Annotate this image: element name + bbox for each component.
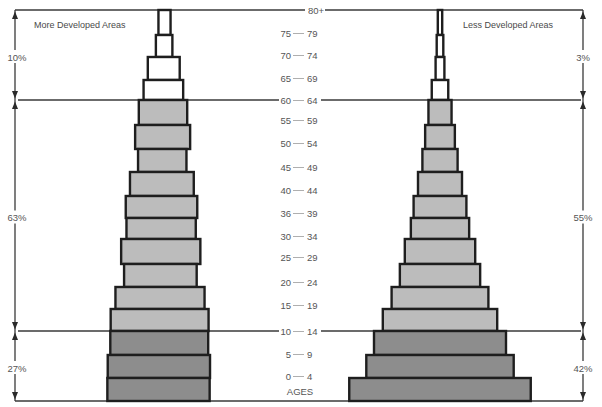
bar-more-developed-30-34 xyxy=(121,239,200,264)
arrow-down-icon xyxy=(12,322,18,330)
age-tick-to: 79 xyxy=(307,28,318,39)
age-tick-75-79: 7579 xyxy=(279,27,321,39)
age-axis: 80+7579707465696064555950544549404436393… xyxy=(279,4,325,382)
share-label-right: 55% xyxy=(573,212,593,223)
share-label-right: 3% xyxy=(576,52,590,63)
arrow-up-icon xyxy=(580,12,586,20)
age-tick-from: 36 xyxy=(280,208,291,219)
bar-less-developed-10-14 xyxy=(374,331,506,355)
age-tick-from: 65 xyxy=(280,73,291,84)
bar-less-developed-50-54 xyxy=(422,149,457,172)
bar-less-developed-80plus xyxy=(438,10,442,35)
age-tick-to: 14 xyxy=(307,326,318,337)
age-tick-to: 24 xyxy=(307,277,318,288)
age-tick-80plus: 80+ xyxy=(305,4,325,16)
age-tick-from: 25 xyxy=(280,252,291,263)
age-tick-from: 45 xyxy=(280,162,291,173)
bar-less-developed-55-59 xyxy=(425,125,455,149)
age-tick-70-74: 7074 xyxy=(279,49,321,61)
bar-more-developed-60-64 xyxy=(139,100,187,125)
bar-less-developed-5-9 xyxy=(366,355,513,378)
age-tick-to: 64 xyxy=(307,95,318,106)
age-tick-to: 34 xyxy=(307,231,318,242)
bar-less-developed-65-69 xyxy=(432,80,449,100)
arrow-down-icon xyxy=(580,91,586,99)
share-label-left: 27% xyxy=(7,363,27,374)
bar-less-developed-60-64 xyxy=(428,100,451,125)
arrow-down-icon xyxy=(580,392,586,400)
bar-less-developed-20-24 xyxy=(392,287,489,309)
age-tick-40-44: 4044 xyxy=(279,184,321,196)
bar-less-developed-70-74 xyxy=(436,57,445,80)
bar-less-developed-40-44 xyxy=(414,196,467,218)
age-axis-label: AGES xyxy=(287,386,313,397)
age-tick-10-14: 1014 xyxy=(279,325,321,337)
age-tick-to: 49 xyxy=(307,162,318,173)
age-tick-from: 30 xyxy=(280,231,291,242)
age-tick-from: 70 xyxy=(280,50,291,61)
age-tick-label: 80+ xyxy=(308,5,325,16)
age-tick-to: 54 xyxy=(307,138,318,149)
bar-more-developed-0-4 xyxy=(107,378,209,401)
share-label-right: 42% xyxy=(573,363,593,374)
age-tick-to: 74 xyxy=(307,50,318,61)
arrow-up-icon xyxy=(12,102,18,110)
age-tick-to: 9 xyxy=(307,349,312,360)
bar-more-developed-40-44 xyxy=(126,196,198,218)
bar-more-developed-36-39 xyxy=(126,218,195,239)
age-tick-from: 20 xyxy=(280,277,291,288)
age-tick-65-69: 6569 xyxy=(279,72,321,84)
bar-more-developed-70-74 xyxy=(148,57,180,80)
age-tick-to: 59 xyxy=(307,115,318,126)
age-tick-5-9: 59 xyxy=(279,348,321,360)
arrow-down-icon xyxy=(12,392,18,400)
age-tick-from: 15 xyxy=(280,300,291,311)
age-tick-60-64: 6064 xyxy=(279,94,321,106)
age-tick-25-29: 2529 xyxy=(279,251,321,263)
age-tick-from: 10 xyxy=(280,326,291,337)
chart-bars xyxy=(107,10,530,401)
age-tick-to: 69 xyxy=(307,73,318,84)
bar-less-developed-30-34 xyxy=(405,239,475,264)
panel-title-less-developed: Less Developed Areas xyxy=(463,20,554,30)
age-tick-55-59: 5559 xyxy=(279,114,321,126)
arrow-up-icon xyxy=(12,12,18,20)
bar-more-developed-15-19 xyxy=(111,309,209,331)
share-label-left: 10% xyxy=(7,52,27,63)
age-tick-15-19: 1519 xyxy=(279,299,321,311)
bar-less-developed-25-29 xyxy=(400,264,480,287)
age-tick-to: 4 xyxy=(307,371,312,382)
bar-less-developed-45-49 xyxy=(418,172,462,196)
arrow-down-icon xyxy=(12,91,18,99)
bar-more-developed-20-24 xyxy=(115,287,204,309)
age-tick-to: 39 xyxy=(307,208,318,219)
age-tick-from: 5 xyxy=(286,349,291,360)
bar-more-developed-80plus xyxy=(158,10,170,35)
panel-title-more-developed: More Developed Areas xyxy=(34,20,126,30)
age-tick-from: 0 xyxy=(286,371,291,382)
bar-more-developed-75-79 xyxy=(156,35,173,57)
bar-more-developed-25-29 xyxy=(124,264,197,287)
share-label-left: 63% xyxy=(7,212,27,223)
age-tick-to: 29 xyxy=(307,252,318,263)
bar-more-developed-55-59 xyxy=(135,125,190,149)
arrow-down-icon xyxy=(580,322,586,330)
age-tick-50-54: 5054 xyxy=(279,137,321,149)
bar-more-developed-65-69 xyxy=(144,80,184,100)
age-tick-from: 55 xyxy=(280,115,291,126)
bar-more-developed-45-49 xyxy=(130,172,194,196)
age-tick-30-34: 3034 xyxy=(279,230,321,242)
bar-less-developed-0-4 xyxy=(349,378,531,401)
arrow-up-icon xyxy=(580,333,586,341)
bar-more-developed-5-9 xyxy=(108,355,210,378)
age-tick-from: 75 xyxy=(280,28,291,39)
age-tick-20-24: 2024 xyxy=(279,276,321,288)
age-tick-from: 40 xyxy=(280,185,291,196)
age-tick-to: 19 xyxy=(307,300,318,311)
age-tick-36-39: 3639 xyxy=(279,207,321,219)
age-tick-from: 60 xyxy=(280,95,291,106)
age-tick-from: 50 xyxy=(280,138,291,149)
population-pyramid-chart: 10%63%27%3%55%42% 80+7579707465696064555… xyxy=(0,0,602,407)
bar-less-developed-15-19 xyxy=(383,309,497,331)
arrow-up-icon xyxy=(12,333,18,341)
